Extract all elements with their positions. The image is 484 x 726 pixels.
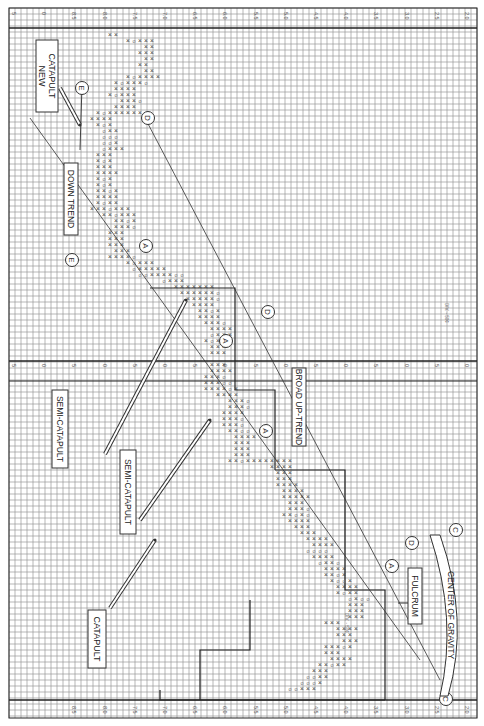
x-mark: × [102,211,106,218]
x-mark: × [102,151,106,158]
o-mark: o [330,662,333,668]
axis-tick-label: 2.5 [434,706,440,714]
axis-tick-label: 7.0 [162,12,168,20]
x-mark: × [156,271,160,278]
o-mark: o [342,644,345,650]
x-mark: × [150,73,154,80]
x-mark: × [246,457,250,464]
x-mark: × [126,109,130,116]
axis-tick-label: 3.5 [373,706,379,714]
broad-up-trend-callout: BROAD UP-TREND [292,368,306,446]
axis-tick-label: 0 [283,364,289,367]
axis-tick-label: 5.5 [253,12,259,20]
x-mark: × [252,433,256,440]
x-mark: × [138,61,142,68]
marker-d-icon: D [142,112,155,125]
o-mark: o [306,548,309,554]
svg-text:A: A [141,243,150,249]
o-mark: o [288,686,291,692]
x-mark: × [336,589,340,596]
marker-a-icon: A [220,335,233,348]
x-mark: × [312,553,316,560]
x-mark: × [336,661,340,668]
axis-tick-label: 5 [434,364,440,367]
x-mark: × [102,193,106,200]
o-mark: o [132,224,135,230]
svg-text:SEMI-CATAPULT: SEMI-CATAPULT [55,396,65,462]
axis-tick-label: 5 [192,364,198,367]
x-mark: × [162,271,166,278]
x-mark: × [312,685,316,692]
x-mark: × [288,517,292,524]
x-mark: × [108,211,112,218]
axis-tick-label: 0 [343,364,349,367]
x-mark: × [336,565,340,572]
x-mark: × [294,505,298,512]
axis-tick-label: 4.5 [313,12,319,20]
x-mark: × [306,535,310,542]
x-mark: × [204,319,208,326]
marker-e-icon: E [66,254,79,267]
x-mark: × [324,649,328,656]
x-mark: × [192,301,196,308]
x-mark: × [306,493,310,500]
axis-tick-label: 8.0 [102,706,108,714]
x-mark: × [204,337,208,344]
semi-catapult-callout-1: SEMI-CATAPULT [52,390,68,468]
x-mark: × [150,271,154,278]
x-mark: × [354,613,358,620]
x-mark: × [222,391,226,398]
marker-d-icon: D [262,306,275,319]
x-mark: × [114,127,118,134]
x-mark: × [204,385,208,392]
svg-text:D: D [143,115,152,121]
x-mark: × [120,109,124,116]
axis-tick-label: 5.0 [283,12,289,20]
x-mark: × [114,253,118,260]
svg-text:CATAPULT: CATAPULT [47,53,57,99]
axis-tick-label: 2.0 [464,12,470,20]
x-mark: × [330,541,334,548]
x-mark: × [138,79,142,86]
x-mark: × [222,349,226,356]
axis-tick-label: 5 [373,364,379,367]
x-mark: × [108,199,112,206]
x-mark: × [120,145,124,152]
x-mark: × [96,121,100,128]
x-mark: × [198,313,202,320]
svg-text:C: C [441,696,450,702]
axis-tick-label: 3.0 [404,12,410,20]
fulcrum-callout: FULCRUM [408,568,422,624]
x-mark: × [330,619,334,626]
axis-tick-label: 5 [71,364,77,367]
axis-tick-label: 5.5 [253,706,259,714]
axis-tick-label: 0 [464,364,470,367]
x-mark: × [348,643,352,650]
x-mark: × [324,541,328,548]
x-mark: × [342,637,346,644]
chart-canvas: 508.58.07.57.06.56.05.55.04.54.03.53.02.… [0,0,484,726]
x-mark: × [294,523,298,530]
x-mark: × [282,493,286,500]
o-mark: o [144,80,147,86]
x-mark: × [108,31,112,38]
x-mark: × [144,265,148,272]
x-mark: × [138,37,142,44]
marker-a-icon: A [260,425,273,438]
x-mark: × [300,685,304,692]
axis-tick-label: 5 [11,364,17,367]
x-mark: × [114,145,118,152]
x-mark: × [282,511,286,518]
x-mark: × [126,211,130,218]
x-mark: × [216,349,220,356]
x-mark: × [318,541,322,548]
x-mark: × [270,463,274,470]
x-mark: × [228,427,232,434]
x-mark: × [108,127,112,134]
x-mark: × [258,457,262,464]
x-mark: × [210,349,214,356]
catapult-callout: CATAPULT [88,610,106,668]
axis-tick-label: 8.5 [71,706,77,714]
x-mark: × [150,55,154,62]
o-mark: o [318,560,321,566]
